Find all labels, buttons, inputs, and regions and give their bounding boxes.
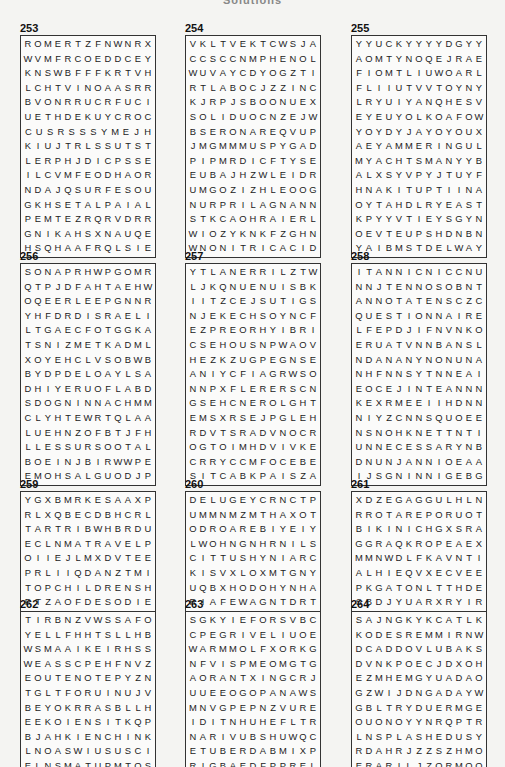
grid-row: GGRAQKROPEAEX: [354, 537, 484, 552]
grid-letter: R: [298, 323, 308, 338]
grid-row: YOYDYJAYOYOUX: [354, 125, 484, 140]
grid-letter: J: [248, 294, 258, 309]
grid-letter: V: [143, 686, 153, 701]
grid-letter: T: [93, 338, 103, 353]
grid-letter: B: [103, 426, 113, 441]
grid-letter: P: [238, 657, 248, 672]
grid-letter: E: [238, 701, 248, 716]
grid-letter: K: [208, 613, 218, 628]
grid-row: UNNECESSARYNB: [354, 440, 484, 455]
grid-letter: H: [268, 52, 278, 67]
grid-letter: S: [93, 139, 103, 154]
grid-letter: T: [374, 198, 384, 213]
grid-letter: G: [454, 37, 464, 52]
grid-letter: I: [414, 66, 424, 81]
grid-letter: W: [288, 730, 298, 745]
grid-letter: S: [308, 294, 318, 309]
grid-letter: N: [188, 657, 198, 672]
grid-letter: O: [404, 581, 414, 596]
grid-letter: E: [298, 95, 308, 110]
grid-letter: O: [354, 227, 364, 242]
grid-letter: V: [278, 701, 288, 716]
grid-letter: R: [63, 52, 73, 67]
grid-letter: O: [238, 81, 248, 96]
grid-letter: A: [374, 265, 384, 280]
grid-letter: C: [258, 110, 268, 125]
grid-letter: J: [131, 125, 142, 140]
grid-letter: N: [63, 396, 73, 411]
grid-letter: N: [268, 551, 278, 566]
grid-letter: H: [143, 581, 153, 596]
grid-letter: D: [123, 338, 133, 353]
grid-letter: E: [444, 198, 454, 213]
grid-letter: N: [404, 411, 414, 426]
grid-letter: R: [143, 81, 153, 96]
grid-letter: T: [113, 426, 123, 441]
grid-letter: U: [248, 715, 258, 730]
grid-letter: V: [188, 37, 198, 52]
grid-letter: A: [123, 613, 133, 628]
grid-letter: I: [53, 566, 63, 581]
letter-grid: SAJNGKYKCATLKKODESREMMIRNWDCADDOVLUBAKSD…: [351, 611, 487, 767]
grid-letter: L: [278, 396, 288, 411]
grid-letter: T: [198, 265, 208, 280]
grid-letter: W: [434, 66, 444, 81]
grid-row: LERPHJDICPSSE: [23, 154, 153, 169]
grid-letter: N: [434, 323, 444, 338]
grid-letter: M: [43, 642, 53, 657]
grid-letter: M: [228, 508, 238, 523]
grid-letter: T: [63, 139, 73, 154]
grid-letter: E: [404, 440, 414, 455]
grid-letter: U: [354, 440, 364, 455]
grid-letter: N: [424, 265, 434, 280]
grid-letter: Y: [308, 566, 318, 581]
grid-letter: L: [23, 426, 33, 441]
grid-letter: B: [258, 522, 268, 537]
grid-letter: A: [113, 338, 123, 353]
grid-letter: A: [53, 744, 63, 759]
grid-letter: Y: [278, 581, 288, 596]
grid-letter: O: [364, 628, 374, 643]
grid-letter: V: [394, 212, 404, 227]
grid-letter: O: [434, 508, 444, 523]
grid-row: HEZKZUGPEGNSE: [188, 353, 318, 368]
grid-letter: I: [364, 66, 374, 81]
grid-letter: N: [103, 37, 113, 52]
grid-letter: G: [308, 183, 318, 198]
grid-letter: R: [364, 508, 374, 523]
grid-letter: O: [444, 81, 454, 96]
grid-letter: F: [43, 309, 53, 324]
grid-letter: M: [278, 744, 288, 759]
grid-letter: K: [238, 227, 248, 242]
grid-letter: J: [434, 657, 444, 672]
grid-letter: J: [308, 671, 318, 686]
grid-letter: M: [133, 566, 143, 581]
grid-letter: Z: [374, 493, 384, 508]
grid-letter: A: [218, 66, 228, 81]
grid-letter: O: [83, 671, 93, 686]
grid-letter: P: [308, 125, 318, 140]
grid-letter: L: [143, 198, 153, 213]
grid-letter: M: [218, 139, 228, 154]
grid-letter: O: [248, 686, 258, 701]
grid-letter: V: [374, 227, 384, 242]
grid-letter: L: [133, 701, 143, 716]
grid-letter: C: [364, 642, 374, 657]
grid-letter: S: [103, 628, 113, 643]
grid-letter: K: [83, 493, 93, 508]
grid-letter: M: [434, 628, 444, 643]
grid-letter: C: [228, 52, 238, 67]
grid-letter: R: [354, 508, 364, 523]
grid-letter: L: [43, 628, 53, 643]
grid-letter: U: [188, 686, 198, 701]
grid-letter: M: [404, 139, 414, 154]
grid-letter: I: [143, 309, 153, 324]
grid-letter: R: [133, 508, 143, 523]
grid-letter: L: [278, 265, 288, 280]
grid-letter: K: [83, 110, 93, 125]
grid-letter: I: [288, 81, 298, 96]
grid-letter: D: [103, 551, 113, 566]
grid-letter: R: [133, 212, 143, 227]
grid-letter: E: [258, 657, 268, 672]
grid-letter: Y: [404, 37, 414, 52]
